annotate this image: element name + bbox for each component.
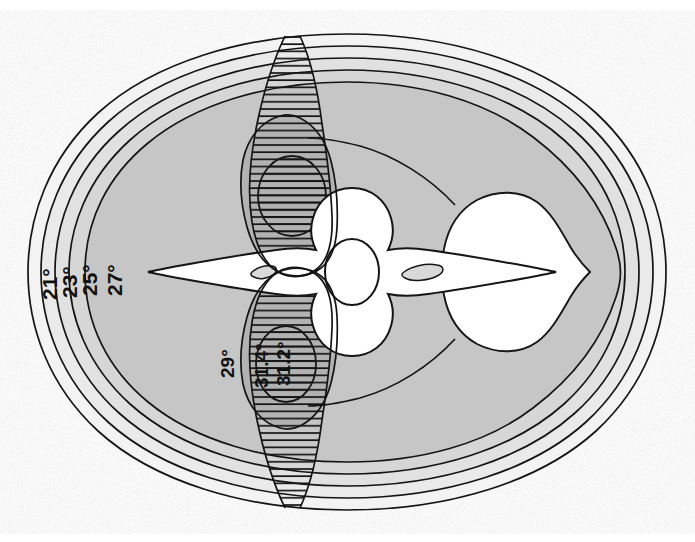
contour-label-29: 29° xyxy=(217,349,238,378)
contour-plot-svg: 21° 23° 25° 27° 29° 31.4° 31.2° xyxy=(0,0,695,542)
contour-label-27: 27° xyxy=(103,264,126,296)
contour-label-25: 25° xyxy=(78,264,101,296)
contour-label-31-2: 31.2° xyxy=(273,341,294,386)
contour-label-31-4: 31.4° xyxy=(251,343,272,388)
contour-figure: 21° 23° 25° 27° 29° 31.4° 31.2° xyxy=(0,0,695,542)
